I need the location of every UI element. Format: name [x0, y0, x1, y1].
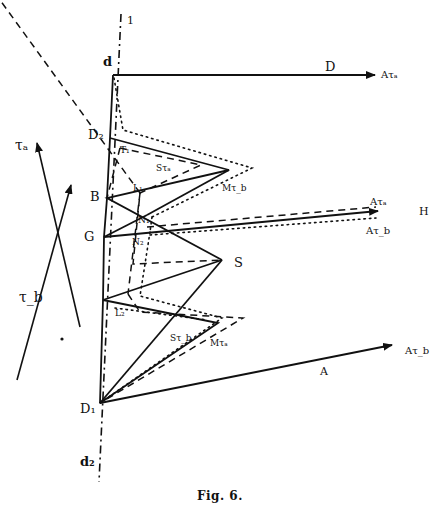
point-D1-label: D₁	[80, 402, 96, 415]
arrow-A-tau-b-mid-label: Aτ_b	[366, 226, 390, 236]
solid-polygon	[100, 75, 392, 403]
arrow-A-tau-a-top-label: Aτₐ	[381, 70, 398, 80]
M-tau-b-label: Mτ_b	[222, 184, 246, 193]
tau-a-label: τₐ	[15, 138, 28, 152]
point-N1-label: N₁	[138, 216, 149, 225]
S-tau-a-label: Sτₐ	[156, 164, 171, 173]
point-L1-label: L₁	[133, 184, 143, 193]
line-A-label: A	[320, 366, 328, 377]
point-G-label: G	[84, 230, 94, 243]
axis-line	[99, 14, 121, 482]
figure-6-diagram: 1 d D Aτₐ D₂ T₁ Sτₐ Mτ_b B L₁ N₁ N₂ G S …	[0, 0, 442, 510]
point-S-label: S	[234, 256, 243, 269]
point-B-label: B	[90, 190, 100, 203]
S-tau-b-label: Sτ_b	[170, 334, 191, 343]
point-D2-label: D₂	[88, 128, 104, 141]
tau-b-label: τ_b	[19, 290, 43, 304]
point-d-label: d	[103, 55, 112, 68]
point-d2-label: d₂	[80, 455, 95, 468]
arrow-A-tau-a-mid-label: Aτₐ	[370, 197, 387, 207]
point-L2-label: L₂	[115, 309, 125, 318]
point-N2-label: N₂	[132, 238, 143, 247]
dot-mark	[60, 337, 63, 340]
point-T1-label: T₁	[120, 146, 130, 155]
axis-top-label: 1	[127, 15, 134, 26]
arrow-A-tau-b-bottom-label: Aτ_b	[405, 346, 429, 356]
M-tau-a-label: Mτₐ	[210, 339, 228, 348]
line-D-label: D	[325, 60, 335, 73]
figure-caption: Fig. 6.	[197, 490, 243, 502]
force-lines-tau	[17, 143, 80, 380]
point-H-label: H	[419, 206, 429, 217]
diagram-drawing	[0, 0, 442, 510]
